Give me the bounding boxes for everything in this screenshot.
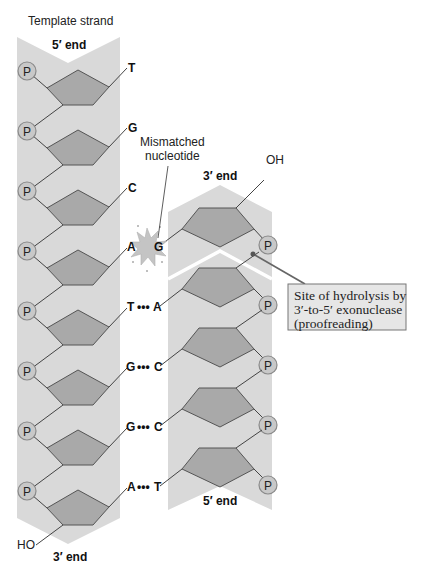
template-5prime-end-label: 5′ end [52,38,86,52]
diagram-title: Template strand [28,14,113,28]
new-base: C [154,360,163,374]
new-3prime-end-label: 3′ end [203,169,237,183]
hydrogen-bond-dots: ••• [137,420,150,434]
dna-proofreading-diagram: Template strand 5′ end P T P G [0,0,425,569]
svg-text:P: P [264,479,272,493]
template-3prime-hydroxyl: HO [17,538,35,552]
svg-text:Mismatched: Mismatched [140,135,205,149]
template-base: G [126,360,135,374]
new-base: C [154,420,163,434]
hydrogen-bond-dots: ••• [137,300,150,314]
svg-text:P: P [23,65,31,79]
svg-text:P: P [264,359,272,373]
new-base-mismatch: G [154,240,163,254]
new-strand: 3′ end OH P P P [160,153,284,510]
svg-text:P: P [23,365,31,379]
new-5prime-end-label: 5′ end [203,494,237,508]
template-base: A [127,480,136,494]
template-3prime-end-label: 3′ end [53,550,87,564]
svg-text:P: P [23,305,31,319]
hydrolysis-site-dot [251,252,256,257]
hydrogen-bond-dots: ••• [137,360,150,374]
svg-text:P: P [264,299,272,313]
svg-text:P: P [264,419,272,433]
svg-text:P: P [23,185,31,199]
mismatch-pointer-line [158,166,168,238]
svg-text:P: P [23,425,31,439]
svg-text:P: P [23,125,31,139]
hydrolysis-callout: Site of hydrolysis by 3′-to-5′ exonuclea… [251,252,407,332]
new-base: A [153,300,162,314]
base-pairs: A G T ••• A G ••• C G ••• C A ••• T [126,225,167,494]
svg-text:P: P [264,239,272,253]
svg-text:3′-to-5′ exonuclease: 3′-to-5′ exonuclease [294,302,402,317]
template-base: C [128,181,137,195]
template-base: T [127,300,135,314]
template-strand-backbone [17,37,120,544]
template-base-mismatch: A [127,240,136,254]
svg-text:nucleotide: nucleotide [145,149,200,163]
template-base: T [128,61,136,75]
svg-text:(proofreading): (proofreading) [294,316,373,331]
hydrogen-bond-dots: ••• [137,480,150,494]
new-3prime-hydroxyl: OH [266,153,284,167]
template-base: G [128,121,137,135]
svg-text:P: P [23,485,31,499]
svg-text:Site of hydrolysis by: Site of hydrolysis by [294,288,406,303]
new-base: T [154,480,162,494]
template-base: G [126,420,135,434]
svg-text:P: P [23,245,31,259]
template-strand: 5′ end P T P G P [17,37,137,564]
